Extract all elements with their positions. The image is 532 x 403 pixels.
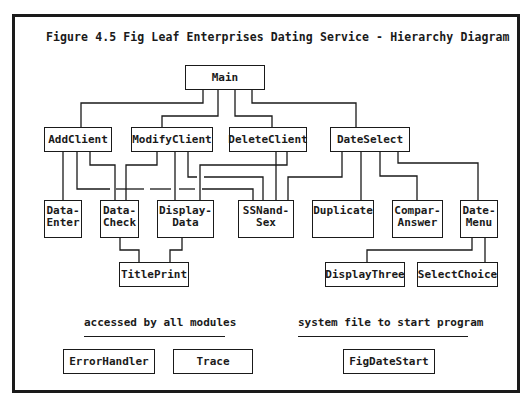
startup-file-rule [298,336,468,337]
node-displaydata: Display- Data [157,200,214,238]
shared-modules-label: accessed by all modules [84,316,236,329]
edge-datacheck-titleprint [120,238,139,262]
node-figdatestart: FigDateStart [343,349,435,374]
edge-modifyclient-datacheck [126,152,157,200]
node-deleteclient: DeleteClient [229,127,307,152]
edge-modifyclient-ssn-a [188,152,197,177]
edge-addclient-ssn-e [202,189,253,200]
edge-main-dateselect [252,90,356,127]
node-selectchoice: SelectChoice [417,262,498,287]
node-ssnandsex: SSNand- Sex [238,200,294,238]
node-trace: Trace [173,349,253,374]
node-main: Main [185,65,265,90]
node-duplicate: Duplicate [312,200,374,238]
node-comparanswer: Compar- Answer [392,200,443,238]
node-modifyclient: ModifyClient [131,127,213,152]
node-titleprint: TitlePrint [119,262,189,287]
node-errorhandler: ErrorHandler [63,349,155,374]
node-dataenter: Data- Enter [44,200,82,238]
edge-datemenu-displaythree [367,238,472,262]
edge-main-deleteclient [235,90,272,127]
shared-modules-rule [84,336,225,337]
node-datacheck: Data- Check [100,200,139,238]
edge-main-modifyclient [162,90,218,127]
node-displaythree: DisplayThree [325,262,405,287]
node-dateselect: DateSelect [330,127,410,152]
edge-displaydata-titleprint [170,238,182,262]
startup-file-label: system file to start program [298,316,483,329]
edge-deleteclient-displaydata [200,152,287,200]
edge-dateselect-ssn [288,152,342,200]
node-datemenu: Date- Menu [460,200,498,238]
edge-main-addclient [81,90,203,127]
edge-addclient-ssn-a [77,152,110,189]
edge-addclient-datacheck [90,152,115,200]
node-addclient: AddClient [44,127,112,152]
